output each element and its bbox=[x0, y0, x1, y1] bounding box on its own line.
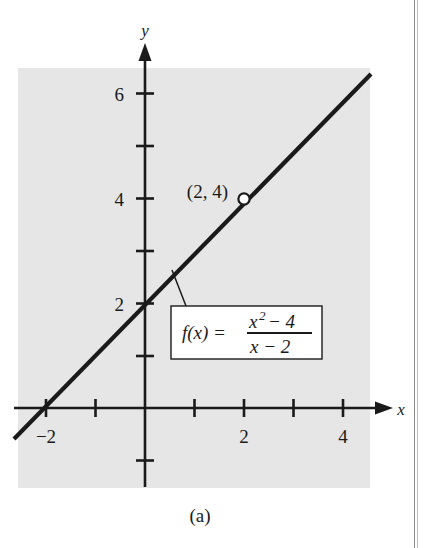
figure-container: −2 2 4 x 6 4 2 y (2, 4) f(x) = x bbox=[0, 0, 424, 548]
formula-numerator-exponent: 2 bbox=[259, 308, 266, 323]
formula-lhs: f(x) = bbox=[182, 322, 226, 344]
formula-numerator-group: x 2 − 4 bbox=[248, 308, 296, 332]
y-axis-arrowhead bbox=[139, 43, 152, 61]
page-border-rule-secondary bbox=[417, 0, 418, 548]
y-axis-label: y bbox=[139, 21, 149, 40]
formula-numerator-x: x bbox=[248, 311, 258, 332]
y-tick-label-2: 2 bbox=[115, 294, 125, 315]
open-circle-discontinuity bbox=[238, 193, 249, 204]
formula-denominator: x − 2 bbox=[249, 336, 291, 357]
x-tick-label-2: 2 bbox=[239, 426, 249, 447]
page-border-rule bbox=[414, 0, 415, 548]
x-axis-label: x bbox=[396, 400, 405, 419]
graph-svg: −2 2 4 x 6 4 2 y (2, 4) f(x) = x bbox=[0, 0, 424, 548]
x-axis-arrowhead bbox=[375, 402, 393, 415]
y-tick-label-4: 4 bbox=[115, 189, 125, 210]
y-tick-label-6: 6 bbox=[115, 84, 125, 105]
point-label-2-4: (2, 4) bbox=[187, 181, 228, 203]
x-tick-label-4: 4 bbox=[338, 426, 348, 447]
x-tick-label--2: −2 bbox=[36, 426, 56, 447]
formula-numerator-rest: − 4 bbox=[268, 311, 296, 332]
figure-caption: (a) bbox=[0, 505, 400, 527]
